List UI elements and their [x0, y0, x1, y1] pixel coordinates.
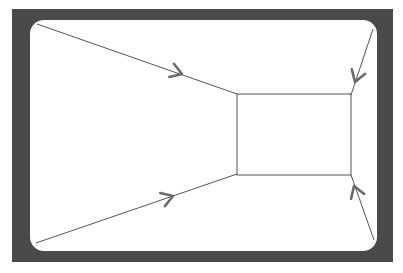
inner-area: [30, 20, 377, 251]
diagram-canvas: [0, 0, 403, 273]
perspective-diagram: [0, 0, 403, 273]
